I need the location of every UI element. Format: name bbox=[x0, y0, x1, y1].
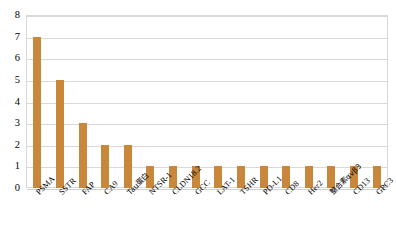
gridline bbox=[27, 124, 387, 125]
bar-chart: 876543210 PSMASSTRFAPCA9Tau蛋白NTSR-1CLDN1… bbox=[0, 0, 396, 250]
gridline bbox=[27, 38, 387, 39]
gridline bbox=[27, 103, 387, 104]
x-axis-labels: PSMASSTRFAPCA9Tau蛋白NTSR-1CLDN18.2GCCLAT-… bbox=[26, 189, 388, 250]
y-axis: 876543210 bbox=[0, 15, 24, 188]
gridline bbox=[27, 59, 387, 60]
gridline bbox=[27, 16, 387, 17]
y-axis-tick-label: 7 bbox=[15, 31, 20, 42]
y-axis-tick-label: 0 bbox=[15, 183, 20, 194]
y-axis-tick-label: 3 bbox=[15, 118, 20, 129]
y-axis-tick-label: 2 bbox=[15, 140, 20, 151]
gridline bbox=[27, 81, 387, 82]
gridline bbox=[27, 167, 387, 168]
y-axis-tick-label: 6 bbox=[15, 53, 20, 64]
y-axis-tick-label: 8 bbox=[15, 10, 20, 21]
plot-area bbox=[26, 15, 388, 188]
y-axis-tick-label: 4 bbox=[15, 96, 20, 107]
gridlines bbox=[27, 16, 387, 187]
gridline bbox=[27, 146, 387, 147]
y-axis-tick-label: 1 bbox=[15, 161, 20, 172]
y-axis-tick-label: 5 bbox=[15, 75, 20, 86]
